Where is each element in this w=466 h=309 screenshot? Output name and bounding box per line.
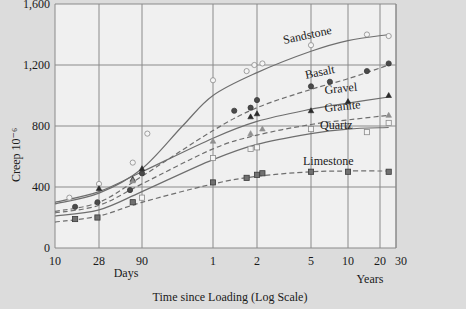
quartz-marker-square [139,195,144,200]
limestone-marker-square [308,169,313,174]
quartz-marker-square [210,155,215,160]
x-tick-label: 2 [254,254,260,268]
sandstone-marker-circle [386,33,391,38]
limestone-marker-square [260,171,265,176]
x-tick-label: 10 [49,254,61,268]
y-tick-label: 1,600 [23,0,50,11]
y-axis-title: Creep 10⁻⁶ [9,128,23,182]
quartz-label: Quartz [320,118,353,132]
quartz-marker-square [254,145,259,150]
y-tick-label: 400 [32,180,50,194]
basalt-marker-circle [254,97,259,102]
basalt-marker-circle [364,69,369,74]
x-axis-days-label: Days [114,266,139,280]
limestone-marker-square [95,215,100,220]
y-axis-ticks: 04008001,2001,600 [23,0,50,255]
x-tick-label: 1 [210,254,216,268]
basalt-marker-circle [72,204,77,209]
basalt-marker-circle [248,105,253,110]
limestone-marker-square [254,172,259,177]
x-tick-label: 5 [308,254,314,268]
basalt-marker-circle [232,108,237,113]
basalt-marker-circle [308,84,313,89]
y-tick-label: 1,200 [23,58,50,72]
sandstone-marker-circle [244,69,249,74]
limestone-marker-square [130,200,135,205]
limestone-marker-square [386,169,391,174]
limestone-marker-square [210,180,215,185]
sandstone-marker-circle [130,160,135,165]
quartz-marker-square [308,126,313,131]
creep-chart: SandstoneBasaltGravelGraniteQuartzLimest… [0,0,466,309]
basalt-marker-circle [139,171,144,176]
basalt-marker-circle [386,61,391,66]
limestone-marker-square [345,169,350,174]
sandstone-marker-circle [67,195,72,200]
x-tick-label: 30 [395,254,407,268]
quartz-marker-square [364,130,369,135]
sandstone-marker-circle [210,78,215,83]
x-axis-years-label: Years [357,272,384,286]
x-tick-label: 10 [342,254,354,268]
limestone-label: Limestone [303,154,354,168]
sandstone-marker-circle [145,131,150,136]
quartz-marker-square [386,120,391,125]
basalt-marker-circle [127,187,132,192]
sandstone-marker-circle [364,32,369,37]
x-tick-label: 20 [374,254,386,268]
sandstone-marker-circle [252,62,257,67]
chart-canvas: SandstoneBasaltGravelGraniteQuartzLimest… [0,0,466,309]
sandstone-marker-circle [260,61,265,66]
y-tick-label: 800 [32,119,50,133]
basalt-marker-circle [95,200,100,205]
limestone-marker-square [244,175,249,180]
x-tick-label: 28 [93,254,105,268]
quartz-marker-square [248,146,253,151]
x-axis-title: Time since Loading (Log Scale) [153,290,308,304]
x-axis-ticks: 102890125102030 [49,254,407,268]
y-tick-label: 0 [44,241,50,255]
sandstone-marker-circle [308,43,313,48]
limestone-marker-square [72,216,77,221]
